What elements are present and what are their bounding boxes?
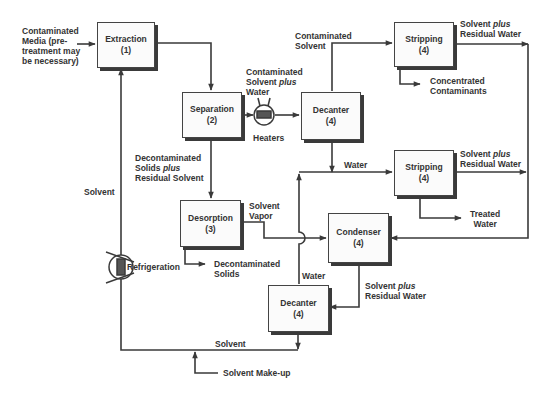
label-water-top: Water xyxy=(344,160,367,170)
label-solvent-makeup: Solvent Make-up xyxy=(223,368,291,378)
stripping-top-unit: Stripping (4) xyxy=(394,22,454,67)
unit-number: (4) xyxy=(353,238,363,249)
label-concentrated-contaminants: Concentrated Contaminants xyxy=(430,76,487,96)
unit-name: Condenser xyxy=(336,227,380,238)
desorption-unit: Desorption (3) xyxy=(180,200,241,247)
label-italic: plus xyxy=(279,77,296,87)
label-line: Residual Solvent xyxy=(135,173,204,183)
label-water-bottom: Water xyxy=(302,271,325,281)
unit-number: (4) xyxy=(293,309,303,320)
label-line: Solids plus xyxy=(135,163,204,173)
heater-icon xyxy=(254,98,274,125)
label-refrigeration: Refrigeration xyxy=(127,262,180,272)
flow-diagram-lines xyxy=(0,0,553,399)
label-contaminated-solvent: Contaminated Solvent xyxy=(295,31,352,51)
label-heaters: Heaters xyxy=(253,133,284,143)
label-decon-solids-solvent: Decontaminated Solids plus Residual Solv… xyxy=(135,153,204,183)
label-line: Solvent plus xyxy=(365,281,426,291)
unit-name: Decanter xyxy=(280,298,316,309)
unit-number: (4) xyxy=(326,116,336,127)
label-line: be necessary) xyxy=(22,56,80,66)
unit-name: Extraction xyxy=(105,34,147,45)
label-italic: plus xyxy=(398,281,415,291)
label-line: Solvent plus xyxy=(460,149,521,159)
unit-name: Decanter xyxy=(313,105,349,116)
label-line: Decontaminated xyxy=(214,259,280,269)
label-solvent-residual-mid: Solvent plus Residual Water xyxy=(460,149,521,169)
label-line: Residual Water xyxy=(365,291,426,301)
label-line: Media (pre- xyxy=(22,36,80,46)
label-line: Solvent xyxy=(249,201,280,211)
unit-number: (1) xyxy=(121,45,131,56)
label-line: Residual Water xyxy=(460,29,521,39)
label-contaminated-media: Contaminated Media (pre- treatment may b… xyxy=(22,26,80,66)
label-line: Contaminants xyxy=(430,86,487,96)
unit-number: (2) xyxy=(207,115,217,126)
label-text: Solvent xyxy=(460,19,493,29)
label-line: Solvent plus xyxy=(460,19,521,29)
label-italic: plus xyxy=(493,149,510,159)
label-solvent-residual-bottom: Solvent plus Residual Water xyxy=(365,281,426,301)
label-italic: plus xyxy=(163,163,180,173)
label-solvent-bottom: Solvent xyxy=(215,339,246,349)
label-line: Residual Water xyxy=(460,159,521,169)
label-line: Solvent xyxy=(295,41,352,51)
label-line: Vapor xyxy=(249,211,280,221)
label-line: Contaminated xyxy=(22,26,80,36)
label-line: Water xyxy=(470,219,500,229)
label-contaminated-solvent-water: Contaminated Solvent plus Water xyxy=(246,67,303,97)
unit-name: Stripping xyxy=(405,162,442,173)
unit-number: (3) xyxy=(205,224,215,235)
label-line: Contaminated xyxy=(295,31,352,41)
label-solvent-vapor: Solvent Vapor xyxy=(249,201,280,221)
label-line: treatment may xyxy=(22,46,80,56)
label-text: Solvent xyxy=(460,149,493,159)
label-line: Solids xyxy=(214,269,280,279)
label-italic: plus xyxy=(493,19,510,29)
decanter-top-unit: Decanter (4) xyxy=(301,92,361,140)
label-line: Decontaminated xyxy=(135,153,204,163)
label-line: Concentrated xyxy=(430,76,487,86)
unit-name: Desorption xyxy=(188,213,233,224)
label-treated-water: Treated Water xyxy=(470,209,500,229)
extraction-unit: Extraction (1) xyxy=(97,22,155,68)
label-text: Solids xyxy=(135,163,163,173)
label-line: Water xyxy=(246,87,303,97)
extraction-to-separation xyxy=(155,43,211,90)
condenser-unit: Condenser (4) xyxy=(328,213,389,263)
label-text: Solvent xyxy=(246,77,279,87)
unit-number: (4) xyxy=(419,173,429,184)
unit-number: (4) xyxy=(419,45,429,56)
label-text: Solvent xyxy=(365,281,398,291)
unit-name: Separation xyxy=(190,104,234,115)
separation-unit: Separation (2) xyxy=(182,92,242,138)
label-solvent-left: Solvent xyxy=(84,187,115,197)
label-line: Solvent plus xyxy=(246,77,303,87)
label-line: Treated xyxy=(470,209,500,219)
label-solvent-residual-top: Solvent plus Residual Water xyxy=(460,19,521,39)
stripping-mid-unit: Stripping (4) xyxy=(394,150,454,196)
label-line: Contaminated xyxy=(246,67,303,77)
decanter-bottom-unit: Decanter (4) xyxy=(268,285,329,332)
label-decontaminated-solids: Decontaminated Solids xyxy=(214,259,280,279)
unit-name: Stripping xyxy=(405,34,442,45)
